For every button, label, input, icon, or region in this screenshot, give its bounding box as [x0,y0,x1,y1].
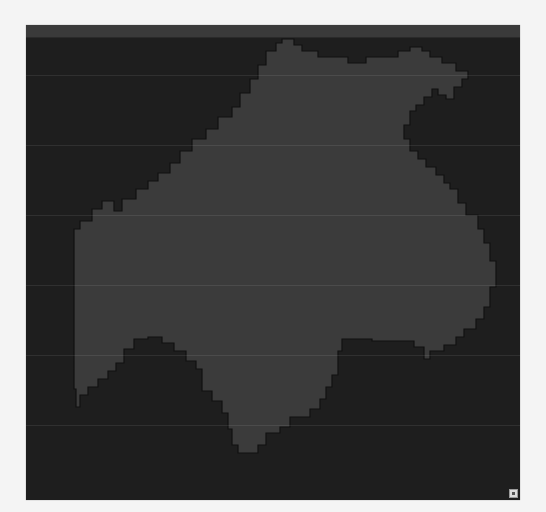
map-panel[interactable] [26,25,520,500]
resize-corner-icon[interactable] [509,489,518,498]
map-canvas[interactable] [26,25,520,500]
map-topbar [26,25,520,38]
